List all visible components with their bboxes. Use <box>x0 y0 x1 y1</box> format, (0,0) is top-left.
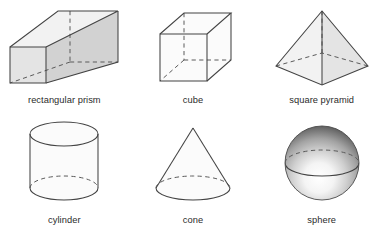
cylinder-illustration <box>0 120 128 210</box>
shape-label-square-pyramid: square pyramid <box>289 95 354 106</box>
shape-cell-square-pyramid: square pyramid <box>257 0 386 120</box>
shape-label-cylinder: cylinder <box>48 215 80 226</box>
shape-label-rectangular-prism: rectangular prism <box>28 95 101 106</box>
rectangular-prism-illustration <box>0 0 128 92</box>
shape-label-cone: cone <box>183 215 203 226</box>
shape-cell-cube: cube <box>129 0 258 120</box>
shape-cell-cylinder: cylinder <box>0 120 129 240</box>
cone-illustration <box>129 120 257 210</box>
shape-cell-cone: cone <box>129 120 258 240</box>
cube-illustration <box>129 0 257 92</box>
shape-label-sphere: sphere <box>307 215 336 226</box>
square-pyramid-illustration <box>258 0 386 92</box>
shape-grid: rectangular prism cube <box>0 0 386 239</box>
geometric-solids-figure: rectangular prism cube <box>0 0 386 239</box>
shape-cell-sphere: sphere <box>257 120 386 240</box>
sphere-illustration <box>258 120 386 210</box>
shape-label-cube: cube <box>183 95 203 106</box>
shape-cell-rectangular-prism: rectangular prism <box>0 0 129 120</box>
